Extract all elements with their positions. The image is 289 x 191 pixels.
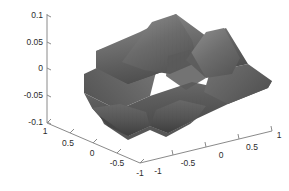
surface-mesh bbox=[84, 14, 272, 140]
z-tick-label-4: -0.1 bbox=[28, 117, 43, 127]
x-tick-label-3: 0.5 bbox=[246, 142, 258, 152]
x-tick-label-4: 1 bbox=[277, 130, 282, 140]
x-tick-label-1: -0.5 bbox=[181, 158, 196, 168]
x-tick-label-2: 0 bbox=[219, 150, 224, 160]
z-tick-label-2: 0 bbox=[38, 63, 43, 73]
y-tick-label-2: 0 bbox=[90, 148, 95, 158]
z-tick-label-0: 0.1 bbox=[31, 10, 43, 20]
plot-canvas: 0.1 0.05 0 -0.05 -0.1 1 0.5 0 -0.5 -1 bbox=[0, 0, 289, 191]
x-tick-label-0: -1 bbox=[154, 166, 162, 176]
z-tick-label-3: -0.05 bbox=[24, 90, 44, 100]
z-axis: 0.1 0.05 0 -0.05 -0.1 bbox=[24, 10, 51, 127]
y-tick-label-1: 0.5 bbox=[62, 138, 74, 148]
z-tick-label-1: 0.05 bbox=[26, 37, 43, 47]
y-tick-label-4: -1 bbox=[136, 168, 144, 178]
y-tick-label-3: -0.5 bbox=[110, 158, 125, 168]
y-tick-label-0: 1 bbox=[43, 126, 48, 136]
surface-plot-figure: 0.1 0.05 0 -0.05 -0.1 1 0.5 0 -0.5 -1 bbox=[0, 0, 289, 191]
